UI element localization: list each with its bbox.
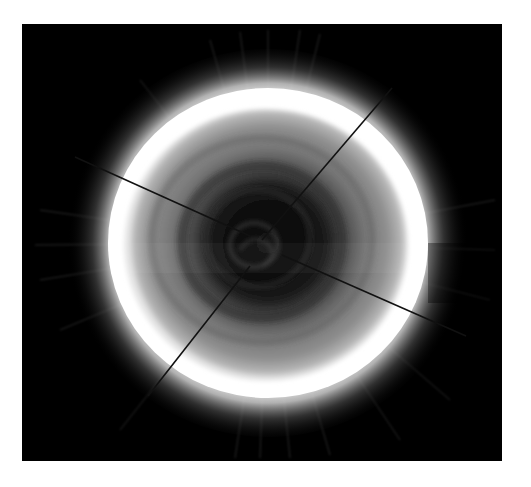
planet-image-frame [22, 24, 502, 461]
mosaic-seam [130, 243, 428, 273]
planet-polar-image [22, 24, 502, 461]
mosaic-seam-outer [428, 243, 502, 303]
image-description: Polar view of a planet: dark central vor… [0, 0, 1, 1]
